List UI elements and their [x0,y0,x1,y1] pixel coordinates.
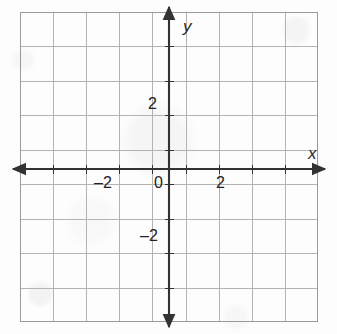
x-tick-label-negative-2: –2 [94,175,112,191]
x-axis-name-label: x [308,145,317,162]
x-tick-label-positive-2: 2 [216,175,225,191]
y-axis-name-label: y [183,18,192,35]
y-tick-label-negative-2: –2 [140,228,158,244]
plot-area: y x 0 –2 2 2 –2 [20,12,318,322]
origin-label: 0 [154,175,163,191]
y-tick-label-positive-2: 2 [148,96,157,112]
axis-lines [20,12,318,322]
coordinate-grid-figure: y x 0 –2 2 2 –2 [0,0,337,334]
